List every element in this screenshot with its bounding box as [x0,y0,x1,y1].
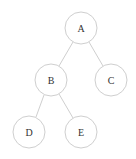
node-e-label: E [78,127,84,138]
node-a-label: A [77,23,85,34]
node-a: A [65,12,97,44]
edge-b-e [59,94,73,118]
tree-diagram: A B C D E [0,0,136,159]
node-e: E [65,116,97,148]
node-c-label: C [108,75,115,86]
node-d-label: D [25,127,32,138]
edge-b-d [36,95,44,117]
edge-a-b [59,42,73,66]
node-c: C [95,64,127,96]
node-b-label: B [48,75,55,86]
edge-a-c [89,42,103,66]
node-b: B [35,64,67,96]
nodes: A B C D E [13,12,127,148]
node-d: D [13,116,45,148]
